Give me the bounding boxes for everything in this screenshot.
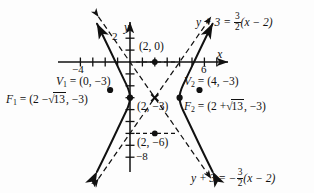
label-focus-left: F1 = (2 −√13, −3) [6, 94, 88, 107]
x-tick-label-6: 6 [201, 64, 207, 75]
label-asymptote-upper: y + 3 = 32(x − 2) [196, 12, 273, 32]
asymptote-lower-rhs: (x − 2) [243, 172, 275, 184]
hyperbola-figure: y x 2 −8 −4 6 (2, 0) (2, −3) (2, −6) V1 … [0, 0, 314, 193]
vertex-left-subscript: 1 [63, 80, 67, 89]
asymptote-upper-denominator: 2 [234, 23, 241, 33]
label-center-point: (2, −3) [137, 101, 168, 113]
x-axis-label: x [217, 48, 222, 60]
focus-left-value-post: , −3) [66, 93, 88, 105]
focus-right-radical: √13 [226, 100, 244, 112]
label-vertex-right: V2 = (4, −3) [184, 76, 239, 89]
vertex-right-value: = (4, −3) [198, 75, 239, 87]
vertex-right-subscript: 2 [191, 80, 195, 89]
label-focus-right: F2 = (2 +√13, −3) [184, 101, 266, 114]
asymptote-upper-lhs: y + 3 = [196, 16, 231, 28]
focus-left-radicand: 13 [53, 92, 66, 105]
focus-right-value-post: , −3) [244, 100, 266, 112]
vertex-left-name: V [56, 75, 63, 87]
vertex-left-value: = (0, −3) [70, 75, 111, 87]
point-2-0 [152, 59, 158, 65]
label-point-2-0: (2, 0) [139, 41, 164, 53]
vertex-right-name: V [184, 75, 191, 87]
focus-right-name: F [184, 100, 191, 112]
label-asymptote-lower: y + 3 = −32(x − 2) [191, 168, 275, 188]
focus-left-value-pre: = (2 − [20, 93, 48, 105]
focus-left-subscript: 1 [13, 98, 17, 107]
point-vertex-right [177, 95, 183, 101]
right-branch [180, 24, 213, 172]
focus-left-radical: √13 [48, 93, 66, 105]
point-vertex-left [127, 95, 133, 101]
label-vertex-left: V1 = (0, −3) [56, 76, 111, 89]
asymptote-upper-rhs: (x − 2) [241, 16, 273, 28]
y-tick-label-neg8: −8 [136, 151, 148, 162]
y-axis-label: y [124, 21, 129, 33]
asymptote-lower-lhs: y + 3 = − [191, 172, 237, 184]
asymptote-upper-fraction: 32 [234, 12, 241, 32]
focus-right-radicand: 13 [231, 99, 244, 112]
focus-right-subscript: 2 [191, 105, 195, 114]
label-point-2-neg6: (2, −6) [137, 137, 168, 149]
focus-left-name: F [6, 93, 13, 105]
y-tick-label-2: 2 [112, 31, 118, 42]
x-tick-label-neg4: −4 [72, 64, 84, 75]
left-branch [97, 24, 130, 172]
focus-right-value-pre: = (2 + [198, 100, 226, 112]
